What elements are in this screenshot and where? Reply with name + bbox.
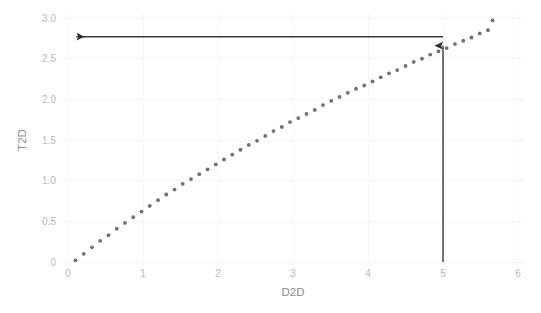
data-point xyxy=(387,71,391,75)
data-point xyxy=(255,139,259,143)
x-tick-label: 1 xyxy=(140,268,146,279)
y-tick-label: 2.0 xyxy=(42,94,56,105)
data-point xyxy=(491,19,495,23)
data-point xyxy=(164,193,168,197)
data-point xyxy=(420,57,424,61)
data-point xyxy=(338,95,342,99)
data-point xyxy=(263,134,267,138)
data-point xyxy=(346,91,350,95)
data-point xyxy=(189,177,193,181)
data-point xyxy=(74,258,78,262)
data-point xyxy=(313,108,317,112)
y-tick-label: 0.5 xyxy=(42,216,56,227)
data-point xyxy=(90,245,94,249)
y-axis-title: T2D xyxy=(16,129,28,151)
data-point xyxy=(362,84,366,88)
data-point xyxy=(288,120,292,124)
data-point xyxy=(156,198,160,202)
scatter-plot-canvas: 00.51.01.52.02.53.0 0123456 D2D T2D xyxy=(0,0,541,313)
y-tick-label: 2.5 xyxy=(42,53,56,64)
data-point xyxy=(247,143,251,147)
data-point xyxy=(428,53,432,57)
data-point xyxy=(230,153,234,157)
x-tick-label: 4 xyxy=(365,268,371,279)
data-point xyxy=(296,116,300,120)
data-point xyxy=(280,125,284,129)
data-point xyxy=(305,112,309,116)
data-point xyxy=(222,158,226,162)
x-axis-title: D2D xyxy=(281,286,304,298)
data-point xyxy=(206,167,210,171)
data-point xyxy=(140,210,144,214)
data-point xyxy=(131,215,135,219)
x-tick-label: 2 xyxy=(215,268,221,279)
data-point xyxy=(354,87,358,91)
data-point xyxy=(395,68,399,72)
y-tick-label: 3.0 xyxy=(42,13,56,24)
data-point xyxy=(98,239,102,243)
data-point xyxy=(470,36,474,40)
data-point xyxy=(82,252,86,256)
data-point xyxy=(115,227,119,231)
data-point xyxy=(173,188,177,192)
data-point xyxy=(321,103,325,107)
data-point xyxy=(214,163,218,167)
chart-figure: 00.51.01.52.02.53.0 0123456 D2D T2D xyxy=(0,0,541,313)
data-point xyxy=(453,42,457,46)
data-point xyxy=(379,75,383,79)
data-point xyxy=(404,64,408,68)
data-point xyxy=(486,28,490,32)
data-point xyxy=(123,221,127,225)
plot-background xyxy=(0,0,541,313)
x-tick-label: 6 xyxy=(515,268,521,279)
y-tick-label: 1.5 xyxy=(42,135,56,146)
data-point xyxy=(239,148,243,152)
data-point xyxy=(371,80,375,84)
x-tick-label: 5 xyxy=(440,268,446,279)
data-point xyxy=(437,49,441,53)
data-point xyxy=(272,129,276,133)
data-point xyxy=(197,172,201,176)
data-point xyxy=(107,233,111,237)
y-tick-label: 1.0 xyxy=(42,175,56,186)
x-tick-label: 0 xyxy=(65,268,71,279)
x-tick-label: 3 xyxy=(290,268,296,279)
data-point xyxy=(329,99,333,103)
data-point xyxy=(478,32,482,36)
data-point xyxy=(412,60,416,64)
data-point xyxy=(461,39,465,43)
data-point xyxy=(445,46,449,50)
y-tick-label: 0 xyxy=(50,257,56,268)
data-point xyxy=(181,182,185,186)
data-point xyxy=(148,204,152,208)
